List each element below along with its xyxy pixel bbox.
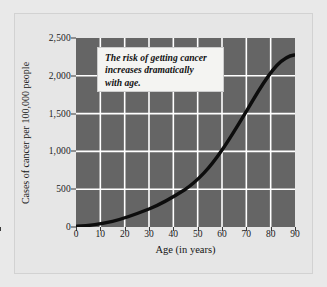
y-tick-label: 2,000: [49, 71, 71, 81]
x-tick-label: 40: [169, 229, 179, 239]
callout-line-1: The risk of getting cancer: [105, 52, 217, 64]
chart-canvas: Cases of cancer per 100,000 people 2,500…: [0, 0, 327, 287]
y-axis-title: Cases of cancer per 100,000 people: [20, 61, 31, 203]
x-tick-label: 10: [96, 229, 106, 239]
y-axis-tick-labels: 2,500 2,000 1,500 1,000 500 0: [36, 38, 71, 227]
x-tick-label: 90: [290, 229, 300, 239]
x-tick-label: 70: [242, 229, 252, 239]
y-axis-title-container: Cases of cancer per 100,000 people: [18, 38, 32, 227]
y-tick-label: 500: [56, 184, 71, 194]
x-axis-title: Age (in years): [76, 244, 295, 255]
chart-figure: Cases of cancer per 100,000 people 2,500…: [0, 0, 327, 287]
x-tick-label: 60: [217, 229, 227, 239]
callout-line-3: with age.: [105, 77, 217, 89]
x-tick-label: 50: [193, 229, 203, 239]
x-tick-label: 20: [120, 229, 130, 239]
x-tick-mark: [0, 227, 1, 231]
x-tick-label: 0: [74, 229, 79, 239]
y-tick-label: 2,500: [49, 33, 71, 43]
y-tick-label: 1,000: [49, 146, 71, 156]
x-tick-label: 80: [266, 229, 276, 239]
x-tick-label: 30: [144, 229, 154, 239]
callout-line-2: increases dramatically: [105, 64, 217, 76]
x-axis-tick-labels: 0 10 20 30 40 50 60 70 80 90: [76, 229, 295, 243]
risk-callout-box: The risk of getting cancer increases dra…: [97, 47, 224, 92]
y-tick-label: 1,500: [49, 109, 71, 119]
horizontal-gridlines: [76, 76, 295, 189]
